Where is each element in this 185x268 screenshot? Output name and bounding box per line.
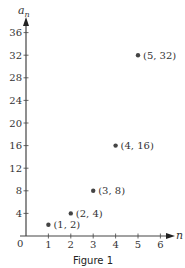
origin-label: 0	[17, 238, 23, 249]
x-axis-label: n	[176, 229, 183, 242]
data-point-label: (4, 16)	[121, 140, 154, 151]
x-tick-label: 1	[45, 239, 51, 250]
y-tick-label: 24	[9, 95, 22, 106]
data-points: (1, 2)(2, 4)(3, 8)(4, 16)(5, 32)	[46, 50, 176, 231]
y-tick-label: 36	[9, 27, 22, 38]
y-axis-label: an	[18, 4, 30, 19]
y-tick-label: 16	[9, 140, 22, 151]
x-axis-arrow	[166, 233, 175, 239]
x-tick-label: 6	[157, 239, 163, 250]
data-point	[91, 189, 95, 193]
x-tick-label: 4	[112, 239, 118, 250]
y-tick-label: 20	[9, 118, 22, 129]
data-point	[113, 143, 117, 147]
data-point-label: (5, 32)	[143, 50, 176, 61]
x-tick-label: 3	[90, 239, 96, 250]
y-tick-label: 32	[9, 50, 22, 61]
figure-caption: Figure 1	[73, 255, 113, 266]
data-point	[136, 53, 140, 57]
y-tick-label: 8	[16, 185, 22, 196]
x-tick-label: 2	[68, 239, 74, 250]
data-point	[69, 211, 73, 215]
data-point	[46, 223, 50, 227]
y-tick-label: 4	[16, 208, 22, 219]
data-point-label: (3, 8)	[98, 185, 125, 196]
y-axis-label-subscript: n	[25, 10, 30, 19]
y-tick-label: 28	[9, 72, 22, 83]
data-point-label: (1, 2)	[53, 219, 80, 230]
y-tick-label: 12	[9, 163, 22, 174]
data-point-label: (2, 4)	[76, 208, 103, 219]
scatter-chart: 4812162024283236123456 (1, 2)(2, 4)(3, 8…	[0, 0, 185, 268]
x-tick-label: 5	[135, 239, 141, 250]
